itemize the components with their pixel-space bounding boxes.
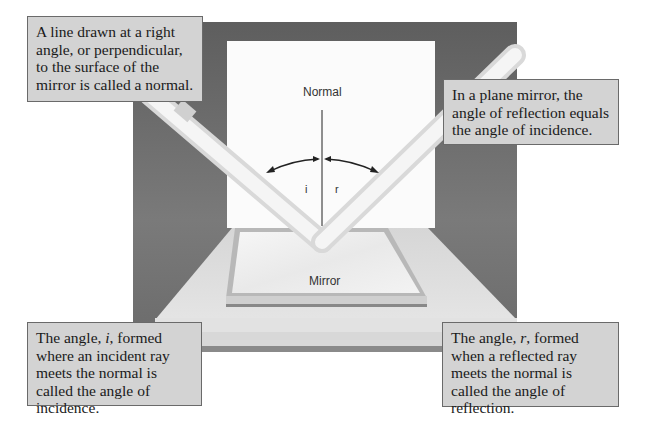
callout-law-text: In a plane mirror, the angle of reflecti… — [452, 86, 609, 138]
callout-angle-of-reflection: The angle, r, formed when a reflected ra… — [442, 322, 619, 407]
callout-angle-of-incidence: The angle, i, formed where an incident r… — [27, 322, 202, 406]
callout-reflection-pre: The angle, — [451, 329, 520, 346]
callout-law-of-reflection: In a plane mirror, the angle of reflecti… — [443, 79, 619, 145]
normal-label: Normal — [303, 85, 342, 99]
mirror-label: Mirror — [309, 274, 340, 288]
callout-incidence-pre: The angle, — [36, 329, 105, 346]
angle-i-label: i — [305, 183, 307, 195]
callout-normal-text: A line drawn at a right angle, or perpen… — [36, 23, 193, 93]
angle-r-label: r — [335, 183, 339, 195]
incident-ray — [150, 95, 322, 242]
callout-normal: A line drawn at a right angle, or perpen… — [27, 16, 203, 102]
